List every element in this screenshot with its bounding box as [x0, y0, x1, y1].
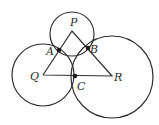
label-b: B	[89, 43, 98, 56]
label-a: A	[45, 45, 54, 58]
label-c: C	[77, 80, 86, 93]
point-c	[73, 74, 78, 79]
point-a	[57, 48, 62, 53]
label-r: R	[113, 71, 122, 84]
geometry-diagram: P Q R A B C	[0, 0, 159, 125]
diagram-svg: P Q R A B C	[0, 0, 159, 125]
circle-r	[71, 36, 153, 118]
label-p: P	[69, 16, 78, 29]
label-q: Q	[30, 70, 39, 83]
